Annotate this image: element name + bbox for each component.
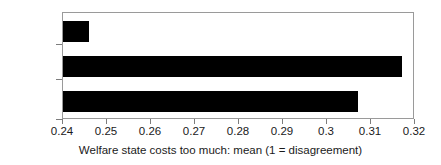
- x-axis-tick-label: 0.28: [218, 126, 258, 138]
- x-axis-tick-label: 0.24: [42, 126, 82, 138]
- x-axis-tick-label: 0.29: [262, 126, 302, 138]
- x-axis-tick-mark: [150, 119, 151, 124]
- x-axis-tick-label: 0.27: [174, 126, 214, 138]
- x-axis-tick-mark: [62, 119, 63, 124]
- x-axis-tick-label: 0.31: [350, 126, 390, 138]
- x-axis-tick-label: 0.3: [306, 126, 346, 138]
- x-axis-tick-label: 0.25: [86, 126, 126, 138]
- x-axis-tick-mark: [370, 119, 371, 124]
- x-axis-tick-mark: [282, 119, 283, 124]
- plot-area: [62, 12, 414, 119]
- bar-upscale: [63, 21, 89, 42]
- x-axis-tick-mark: [326, 119, 327, 124]
- bar-row: [63, 21, 89, 42]
- y-axis-tick-mark: [56, 79, 62, 80]
- x-axis-tick-mark: [194, 119, 195, 124]
- y-axis-tick-mark: [56, 44, 62, 45]
- bar-outsiders: [63, 56, 402, 77]
- bar-chart-figure: Upscale Outsiders Insiders 0.240.250.260…: [0, 0, 441, 165]
- x-axis-tick-label: 0.32: [394, 126, 434, 138]
- x-axis-tick-label: 0.26: [130, 126, 170, 138]
- bar-row: [63, 91, 358, 112]
- bar-row: [63, 56, 402, 77]
- x-axis-title: Welfare state costs too much: mean (1 = …: [0, 145, 441, 157]
- x-axis-tick-mark: [238, 119, 239, 124]
- x-axis-tick-mark: [106, 119, 107, 124]
- x-axis-tick-mark: [414, 119, 415, 124]
- bar-insiders: [63, 91, 358, 112]
